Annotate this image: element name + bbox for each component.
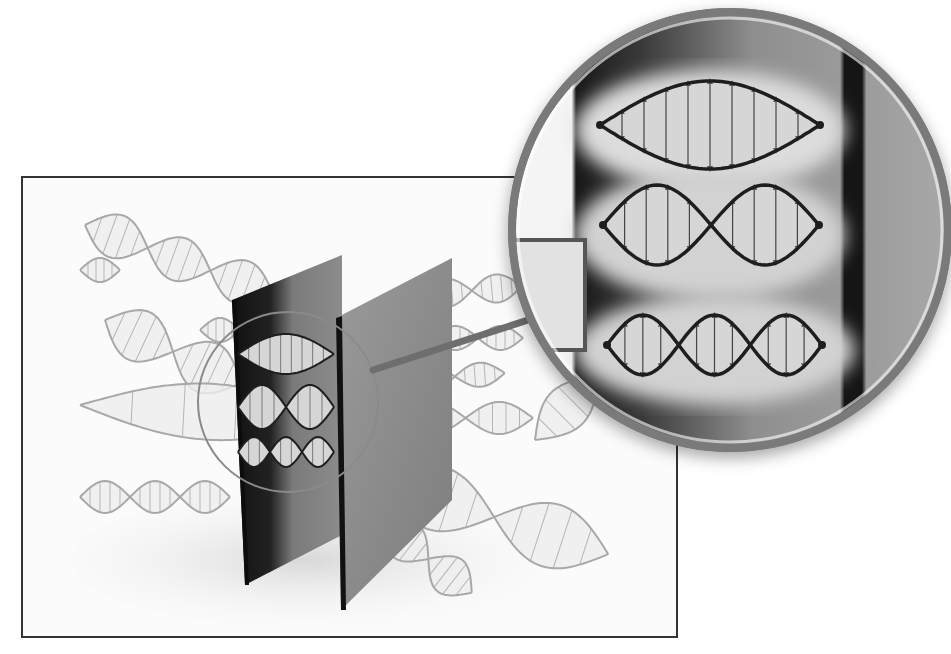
faint-wave: [80, 481, 230, 513]
mode-3-magnified: [603, 315, 826, 375]
mode-3-small: [238, 437, 334, 467]
standing-wave-illustration: [0, 0, 951, 654]
